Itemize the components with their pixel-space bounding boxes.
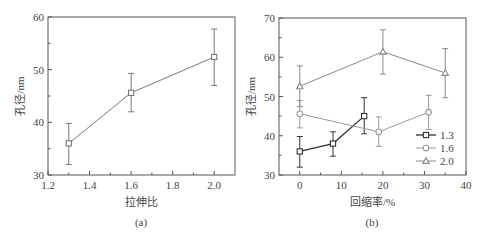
panel-caption: (b): [366, 216, 379, 229]
plot-frame: [279, 18, 466, 175]
square-legend-icon: [423, 132, 428, 137]
x-tick-label: 30: [419, 179, 431, 191]
chart-panel-b: 3040506070010203040回缩率/%孔径/nm(b)1.31.62.…: [245, 12, 472, 229]
y-tick-label: 70: [264, 12, 276, 24]
square-marker-icon: [330, 141, 335, 146]
square-marker-icon: [362, 114, 367, 119]
panel-caption: (a): [135, 216, 148, 229]
x-tick-label: 20: [377, 179, 389, 191]
series-1.3: [297, 98, 367, 167]
x-tick-label: 1.2: [41, 179, 55, 191]
legend-label: 1.6: [440, 142, 454, 154]
x-axis-label: 回缩率/%: [350, 195, 395, 208]
series-line: [300, 52, 445, 87]
triangle-marker-icon: [380, 48, 386, 54]
y-tick-label: 60: [33, 11, 45, 23]
circle-marker-icon: [297, 111, 303, 117]
series-main: [66, 29, 217, 164]
y-tick-label: 40: [264, 130, 276, 142]
square-marker-icon: [129, 90, 134, 95]
legend-label: 2.0: [440, 155, 454, 167]
circle-marker-icon: [376, 129, 382, 135]
y-tick-label: 30: [264, 169, 276, 181]
x-tick-label: 0: [297, 179, 303, 191]
x-tick-label: 1.4: [83, 179, 97, 191]
x-tick-label: 2.0: [207, 179, 221, 191]
circle-marker-icon: [426, 109, 432, 115]
y-axis-label: 孔径/nm: [14, 76, 26, 116]
x-tick-label: 1.8: [166, 179, 180, 191]
figure: 304050601.21.41.61.82.0拉伸比孔径/nm(a)304050…: [0, 0, 489, 236]
series-line: [69, 57, 214, 143]
square-marker-icon: [212, 54, 217, 59]
x-tick-label: 40: [461, 179, 473, 191]
y-tick-label: 50: [264, 91, 276, 103]
y-axis-label: 孔径/nm: [245, 77, 257, 117]
circle-legend-icon: [423, 145, 429, 151]
legend-label: 1.3: [440, 129, 454, 141]
x-axis-label: 拉伸比: [125, 195, 158, 208]
y-tick-label: 50: [33, 64, 45, 76]
y-tick-label: 60: [264, 51, 276, 63]
x-tick-label: 1.6: [124, 179, 138, 191]
y-tick-label: 40: [33, 116, 45, 128]
plot-frame: [48, 17, 235, 175]
square-marker-icon: [66, 141, 71, 146]
chart-panel-a: 304050601.21.41.61.82.0拉伸比孔径/nm(a): [14, 11, 235, 229]
legend: 1.31.62.0: [416, 129, 454, 167]
square-marker-icon: [297, 149, 302, 154]
x-tick-label: 10: [336, 179, 348, 191]
